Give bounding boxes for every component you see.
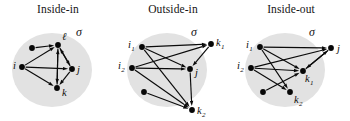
node-label-i2: i2 [237, 60, 244, 74]
node-subscript-i2: 2 [121, 66, 125, 74]
node-l [55, 42, 61, 48]
node-i1 [257, 44, 263, 50]
node-label-k2: k2 [197, 105, 206, 119]
node-subscript-k2: 2 [202, 111, 206, 119]
panel-inside-in: Inside-in ℓijkσ [0, 0, 116, 121]
region-label-sigma: σ [309, 25, 316, 39]
node-k [54, 85, 60, 91]
node-subscript-i2: 2 [240, 66, 244, 74]
panel-graph-inside-in: ℓijkσ [0, 0, 116, 121]
region-sigma [12, 33, 92, 107]
node-label-k: k [62, 87, 67, 98]
panel-graph-outside-in: i1i2jk1k2σ [115, 0, 231, 121]
node-label-i1: i1 [246, 39, 253, 53]
node-subscript-i1: 1 [131, 45, 135, 53]
node-label-k1: k1 [216, 37, 224, 51]
node-label-j: j [335, 43, 340, 54]
node-k2 [189, 107, 195, 113]
node-label-i: i [13, 60, 16, 71]
node-unlabeled-3 [260, 89, 266, 95]
node-i1 [139, 44, 145, 50]
triad-types-figure: Inside-in ℓijkσ Outside-in i1i2jk1k2σ In… [0, 0, 350, 121]
panel-outside-in: Outside-in i1i2jk1k2σ [115, 0, 231, 121]
panel-graph-inside-out: i1i2k1k2jσ [233, 0, 349, 121]
node-i2 [248, 65, 254, 71]
node-label-i2: i2 [118, 60, 125, 74]
region-label-sigma: σ [76, 25, 83, 39]
node-i2 [129, 65, 135, 71]
node-subscript-k1: 1 [221, 43, 225, 51]
region-label-sigma: σ [191, 25, 198, 39]
node-subscript-k1: 1 [310, 79, 314, 87]
node-subscript-i1: 1 [249, 45, 253, 53]
node-k2 [287, 89, 293, 95]
node-i [19, 64, 25, 70]
node-j [69, 66, 75, 72]
node-j [187, 66, 193, 72]
node-subscript-k2: 2 [299, 100, 303, 108]
node-unlabeled-1 [29, 45, 35, 51]
node-unlabeled-2 [141, 89, 147, 95]
panel-inside-out: Inside-out i1i2k1k2jσ [233, 0, 349, 121]
node-label-i1: i1 [128, 39, 135, 53]
node-j [328, 45, 334, 51]
node-k1 [208, 41, 214, 47]
node-label-l: ℓ [62, 31, 67, 42]
